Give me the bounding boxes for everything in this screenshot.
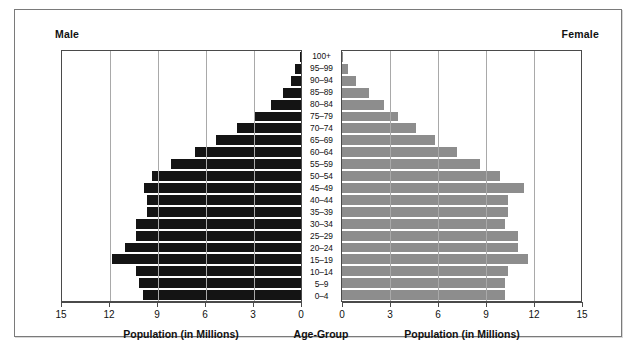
female-bar: [342, 123, 416, 133]
bar-row: [62, 146, 301, 158]
male-axis-tick: [205, 302, 206, 307]
female-bar: [342, 231, 518, 241]
male-bar: [216, 135, 301, 145]
age-group-label: 55–59: [302, 158, 341, 170]
gridline: [534, 51, 535, 301]
male-bar: [271, 100, 301, 110]
age-group-label: 45–49: [302, 182, 341, 194]
male-bar: [143, 290, 301, 300]
female-bar: [342, 243, 518, 253]
bar-row: [62, 194, 301, 206]
female-bar: [342, 64, 348, 74]
female-bar: [342, 207, 508, 217]
age-group-label: 70–74: [302, 122, 341, 134]
bar-row: [342, 242, 581, 254]
female-bar: [342, 195, 508, 205]
male-bar: [144, 183, 301, 193]
male-bar: [283, 88, 301, 98]
bar-row: [62, 253, 301, 265]
gridline: [206, 51, 207, 301]
female-bar: [342, 219, 505, 229]
center-axis-title: Age-Group: [294, 328, 349, 340]
male-axis-tick: [301, 302, 302, 307]
female-bar: [342, 254, 528, 264]
age-group-label: 5–9: [302, 278, 341, 290]
age-group-label: 30–34: [302, 218, 341, 230]
male-bar: [171, 159, 301, 169]
male-axis-title: Population (in Millions): [123, 328, 239, 340]
bar-row: [62, 218, 301, 230]
bar-row: [62, 75, 301, 87]
age-group-label: 35–39: [302, 206, 341, 218]
bar-row: [342, 63, 581, 75]
male-tick-label: 15: [55, 309, 66, 320]
bar-row: [62, 134, 301, 146]
female-bar: [342, 100, 384, 110]
bar-row: [62, 230, 301, 242]
age-group-label: 40–44: [302, 194, 341, 206]
female-bar: [342, 88, 369, 98]
bar-row: [62, 265, 301, 277]
female-axis-tick: [486, 302, 487, 307]
bar-row: [342, 206, 581, 218]
female-axis-line: [342, 302, 583, 303]
female-bar-rows: [342, 51, 581, 301]
female-axis-tick: [342, 302, 343, 307]
female-plot-panel: [342, 50, 582, 302]
male-bar: [291, 76, 301, 86]
age-group-label: 15–19: [302, 254, 341, 266]
female-axis-tick: [438, 302, 439, 307]
female-bar: [342, 52, 343, 62]
male-plot-panel: [61, 50, 301, 302]
age-group-label: 95–99: [302, 62, 341, 74]
age-group-label: 85–89: [302, 86, 341, 98]
bar-row: [62, 289, 301, 301]
male-tick-label: 12: [103, 309, 114, 320]
female-axis-tick: [534, 302, 535, 307]
age-group-label: 100+: [302, 50, 341, 62]
bar-row: [342, 111, 581, 123]
gridline: [158, 51, 159, 301]
bar-row: [62, 63, 301, 75]
female-bar: [342, 135, 435, 145]
male-axis-line: [61, 302, 302, 303]
male-tick-label: 3: [250, 309, 256, 320]
female-bar: [342, 171, 500, 181]
male-tick-label: 6: [202, 309, 208, 320]
male-caption: Male: [55, 28, 79, 40]
gridline: [390, 51, 391, 301]
age-group-column: 100+95–9990–9485–8980–8475–7970–7465–696…: [301, 50, 342, 302]
female-axis-tick: [582, 302, 583, 307]
bar-row: [62, 277, 301, 289]
male-bar: [136, 231, 301, 241]
bar-row: [342, 146, 581, 158]
male-bar: [147, 207, 301, 217]
female-tick-label: 3: [387, 309, 393, 320]
bar-row: [342, 87, 581, 99]
bar-row: [342, 99, 581, 111]
female-axis-title: Population (in Millions): [404, 328, 520, 340]
male-bar: [147, 195, 301, 205]
male-axis-tick: [109, 302, 110, 307]
male-axis-tick: [253, 302, 254, 307]
male-bar: [195, 147, 301, 157]
bar-row: [62, 242, 301, 254]
bar-row: [62, 99, 301, 111]
age-group-label: 75–79: [302, 110, 341, 122]
bar-row: [62, 170, 301, 182]
male-axis-tick: [61, 302, 62, 307]
female-bar: [342, 76, 356, 86]
female-tick-label: 6: [435, 309, 441, 320]
bar-row: [62, 158, 301, 170]
age-group-label: 25–29: [302, 230, 341, 242]
bar-row: [342, 253, 581, 265]
bar-row: [62, 182, 301, 194]
age-group-label: 60–64: [302, 146, 341, 158]
population-pyramid-figure: Male Female 100+95–9990–9485–8980–8475–7…: [14, 9, 622, 337]
bar-row: [342, 289, 581, 301]
bar-row: [342, 265, 581, 277]
bar-row: [342, 158, 581, 170]
bar-row: [342, 51, 581, 63]
age-group-label: 80–84: [302, 98, 341, 110]
bar-row: [62, 87, 301, 99]
